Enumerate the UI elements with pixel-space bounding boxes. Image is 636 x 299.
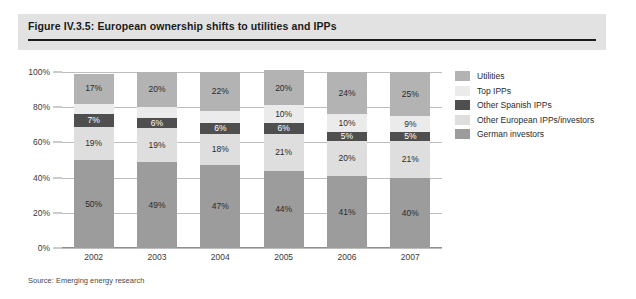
y-tick-label-40: 40% (33, 173, 50, 183)
bar-value-label: 6% (214, 124, 226, 133)
bar-segment-2006-other-spanish-ipps[interactable]: 5% (327, 132, 367, 141)
bar-value-label: 5% (341, 132, 353, 141)
bar-segment-2004-german-investors[interactable]: 47% (200, 165, 240, 248)
y-tick-mark-0 (53, 248, 62, 249)
legend-label: Other Spanish IPPs (477, 100, 552, 110)
bar-segment-2002-top-ipps[interactable]: 6% (74, 104, 114, 115)
bar-segment-2006-other-european-ipps-investors[interactable]: 20% (327, 141, 367, 176)
bar-segment-2002-other-european-ipps-investors[interactable]: 19% (74, 127, 114, 160)
legend-swatch-icon (455, 86, 470, 96)
y-axis: 100%80%60%40%20%0% (18, 72, 62, 248)
y-tick-label-20: 20% (33, 208, 50, 218)
y-tick-label-0: 0% (38, 243, 50, 253)
bar-value-label: 40% (402, 209, 419, 218)
bar-segment-2004-top-ipps[interactable]: 7% (200, 111, 240, 123)
bar-value-label: 24% (338, 89, 355, 98)
bar-segment-2007-other-spanish-ipps[interactable]: 5% (390, 132, 430, 141)
gridline-80 (62, 107, 442, 108)
bar-segment-2004-other-spanish-ipps[interactable]: 6% (200, 123, 240, 134)
bar-segment-2005-other-spanish-ipps[interactable]: 6% (264, 123, 304, 134)
bar-segment-2005-top-ipps[interactable]: 10% (264, 105, 304, 123)
bar-segment-2006-german-investors[interactable]: 41% (327, 176, 367, 248)
gridline-100 (62, 72, 442, 73)
bar-segment-2003-german-investors[interactable]: 49% (137, 162, 177, 248)
bar-value-label: 25% (402, 90, 419, 99)
bar-column-2007[interactable]: 40%21%5%9%25% (390, 72, 430, 248)
bar-value-label: 21% (402, 155, 419, 164)
bar-column-2005[interactable]: 44%21%6%10%20% (264, 72, 304, 248)
legend-item-german-investors[interactable]: German investors (455, 127, 625, 142)
gridline-20 (62, 213, 442, 214)
legend-label: German investors (477, 129, 544, 139)
bar-segment-2007-utilities[interactable]: 25% (390, 72, 430, 116)
legend-item-other-european-ipps-investors[interactable]: Other European IPPs/investors (455, 113, 625, 128)
legend-item-top-ipps[interactable]: Top IPPs (455, 84, 625, 99)
bar-segment-2007-other-european-ipps-investors[interactable]: 21% (390, 141, 430, 178)
x-axis: 200220032004200520062007 (62, 250, 442, 266)
bar-value-label: 49% (148, 201, 165, 210)
bar-column-2003[interactable]: 49%19%6%6%20% (137, 72, 177, 248)
bar-column-2006[interactable]: 41%20%5%10%24% (327, 72, 367, 248)
x-tick-label-2006: 2006 (317, 252, 377, 262)
y-tick-mark-20 (53, 212, 62, 213)
bar-segment-2003-top-ipps[interactable]: 6% (137, 107, 177, 118)
bar-value-label: 18% (212, 145, 229, 154)
bar-value-label: 10% (275, 110, 292, 119)
legend-label: Other European IPPs/investors (477, 115, 594, 125)
bar-segment-2005-utilities[interactable]: 20% (264, 70, 304, 105)
title-underline (28, 39, 596, 41)
legend-swatch-icon (455, 115, 470, 125)
bar-value-label: 19% (85, 139, 102, 148)
bar-segment-2007-german-investors[interactable]: 40% (390, 178, 430, 248)
bar-segment-2004-other-european-ipps-investors[interactable]: 18% (200, 134, 240, 166)
bar-segment-2005-other-european-ipps-investors[interactable]: 21% (264, 134, 304, 171)
bar-value-label: 47% (212, 202, 229, 211)
bar-value-label: 20% (148, 85, 165, 94)
y-tick-mark-80 (53, 107, 62, 108)
bar-value-label: 19% (148, 141, 165, 150)
legend-swatch-icon (455, 100, 470, 110)
bar-segment-2003-utilities[interactable]: 20% (137, 72, 177, 107)
bar-segment-2003-other-spanish-ipps[interactable]: 6% (137, 118, 177, 129)
bar-column-2004[interactable]: 47%18%6%7%22% (200, 72, 240, 248)
bar-segment-2004-utilities[interactable]: 22% (200, 72, 240, 111)
bar-value-label: 6% (278, 124, 290, 133)
bar-value-label: 41% (338, 208, 355, 217)
figure-title: Figure IV.3.5: European ownership shifts… (28, 20, 337, 32)
source-note: Source: Emerging energy research (28, 276, 144, 285)
chart-plot-area: 50%19%7%6%17%49%19%6%6%20%47%18%6%7%22%4… (62, 72, 442, 248)
bar-value-label: 22% (212, 87, 229, 96)
bar-value-label: 20% (275, 84, 292, 93)
bar-value-label: 5% (404, 132, 416, 141)
legend-swatch-icon (455, 129, 470, 139)
legend-item-utilities[interactable]: Utilities (455, 69, 625, 84)
legend-label: Top IPPs (477, 86, 511, 96)
gridline-40 (62, 178, 442, 179)
bar-segment-2005-german-investors[interactable]: 44% (264, 171, 304, 248)
chart-legend: UtilitiesTop IPPsOther Spanish IPPsOther… (455, 69, 625, 142)
figure-header-band: Figure IV.3.5: European ownership shifts… (18, 14, 606, 50)
bar-segment-2002-other-spanish-ipps[interactable]: 7% (74, 114, 114, 126)
y-tick-mark-40 (53, 177, 62, 178)
bar-segment-2002-utilities[interactable]: 17% (74, 74, 114, 104)
y-tick-label-80: 80% (33, 102, 50, 112)
x-tick-label-2002: 2002 (64, 252, 124, 262)
bar-value-label: 6% (151, 119, 163, 128)
x-tick-label-2005: 2005 (254, 252, 314, 262)
y-tick-label-60: 60% (33, 137, 50, 147)
bar-segment-2006-utilities[interactable]: 24% (327, 72, 367, 114)
bar-segment-2007-top-ipps[interactable]: 9% (390, 116, 430, 132)
bar-segment-2003-other-european-ipps-investors[interactable]: 19% (137, 128, 177, 161)
x-tick-label-2003: 2003 (127, 252, 187, 262)
bar-value-label: 50% (85, 200, 102, 209)
y-tick-mark-100 (53, 72, 62, 73)
bar-segment-2006-top-ipps[interactable]: 10% (327, 114, 367, 132)
bar-segment-2002-german-investors[interactable]: 50% (74, 160, 114, 248)
gridline-0 (62, 248, 442, 249)
gridline-60 (62, 142, 442, 143)
bar-value-label: 7% (88, 116, 100, 125)
x-tick-label-2007: 2007 (380, 252, 440, 262)
bar-value-label: 17% (85, 84, 102, 93)
bar-column-2002[interactable]: 50%19%7%6%17% (74, 72, 114, 248)
legend-item-other-spanish-ipps[interactable]: Other Spanish IPPs (455, 98, 625, 113)
